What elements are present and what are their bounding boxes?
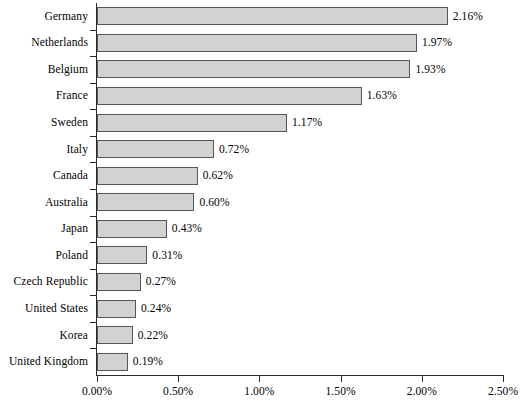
category-label: Germany <box>0 10 88 23</box>
bar-value-label: 1.63% <box>367 89 397 102</box>
bar-value-label: 0.60% <box>199 196 229 209</box>
bar-row[interactable]: United Kingdom0.19% <box>0 348 520 375</box>
bar-value-label: 1.97% <box>422 36 452 49</box>
x-axis-tick-label: 0.50% <box>138 384 218 398</box>
bar-value-label: 0.19% <box>133 355 163 368</box>
category-label: Belgium <box>0 63 88 76</box>
bar-row[interactable]: Czech Republic0.27% <box>0 269 520 296</box>
category-label: United Kingdom <box>0 355 88 368</box>
category-label: Italy <box>0 143 88 156</box>
bar-value-label: 0.62% <box>203 169 233 182</box>
x-axis-tick <box>422 376 423 382</box>
bar-with-value: 2.16% <box>97 7 483 25</box>
bar-row[interactable]: Korea0.22% <box>0 322 520 349</box>
bar-value-label: 0.72% <box>219 143 249 156</box>
y-axis-tick <box>90 322 96 323</box>
bar-chart: Germany2.16%Netherlands1.97%Belgium1.93%… <box>0 0 520 410</box>
y-axis-tick <box>90 189 96 190</box>
x-axis-tick <box>503 376 504 382</box>
category-label: Netherlands <box>0 36 88 49</box>
bar-with-value: 0.24% <box>97 300 171 318</box>
bar-value-label: 1.93% <box>415 63 445 76</box>
bar-rows-container: Germany2.16%Netherlands1.97%Belgium1.93%… <box>0 3 520 375</box>
bar-row[interactable]: Australia0.60% <box>0 189 520 216</box>
bar[interactable] <box>97 220 167 238</box>
category-label: Japan <box>0 222 88 235</box>
bar-with-value: 0.62% <box>97 167 233 185</box>
bar-with-value: 0.22% <box>97 326 168 344</box>
x-axis-tick <box>178 376 179 382</box>
bar-with-value: 0.72% <box>97 140 249 158</box>
category-label: Korea <box>0 329 88 342</box>
bar[interactable] <box>97 140 214 158</box>
bar-with-value: 1.97% <box>97 34 452 52</box>
bar-row[interactable]: Belgium1.93% <box>0 56 520 83</box>
bar[interactable] <box>97 60 410 78</box>
bar-value-label: 2.16% <box>453 10 483 23</box>
x-axis-tick-label: 2.00% <box>382 384 462 398</box>
x-axis-tick <box>97 376 98 382</box>
y-axis-tick <box>90 348 96 349</box>
bar-value-label: 0.43% <box>172 222 202 235</box>
bar[interactable] <box>97 7 448 25</box>
y-axis-tick <box>90 269 96 270</box>
bar-row[interactable]: Canada0.62% <box>0 162 520 189</box>
bar-row[interactable]: Netherlands1.97% <box>0 30 520 57</box>
bar-row[interactable]: France1.63% <box>0 83 520 110</box>
y-axis-tick <box>90 162 96 163</box>
bar-with-value: 0.19% <box>97 353 163 371</box>
bar-with-value: 0.43% <box>97 220 202 238</box>
x-axis-tick <box>341 376 342 382</box>
bar-with-value: 0.31% <box>97 246 183 264</box>
category-label: Poland <box>0 249 88 262</box>
bar-row[interactable]: United States0.24% <box>0 295 520 322</box>
bar-with-value: 1.63% <box>97 87 397 105</box>
bar-value-label: 0.27% <box>146 275 176 288</box>
bar[interactable] <box>97 246 147 264</box>
category-label: Canada <box>0 169 88 182</box>
category-label: Czech Republic <box>0 275 88 288</box>
x-axis-ticks: 0.00%0.50%1.00%1.50%2.00%2.50% <box>0 375 520 410</box>
y-axis-tick <box>90 136 96 137</box>
x-axis-tick-label: 2.50% <box>463 384 520 398</box>
y-axis-tick <box>90 216 96 217</box>
x-axis-tick <box>259 376 260 382</box>
x-axis-tick-label: 1.50% <box>301 384 381 398</box>
bar-row[interactable]: Japan0.43% <box>0 216 520 243</box>
y-axis-tick <box>90 83 96 84</box>
bar[interactable] <box>97 34 417 52</box>
x-axis-tick-label: 1.00% <box>219 384 299 398</box>
bar[interactable] <box>97 273 141 291</box>
category-label: Australia <box>0 196 88 209</box>
bar-row[interactable]: Poland0.31% <box>0 242 520 269</box>
y-axis-tick <box>90 109 96 110</box>
x-axis-tick-label: 0.00% <box>57 384 137 398</box>
bar-value-label: 0.24% <box>141 302 171 315</box>
y-axis-tick <box>90 242 96 243</box>
y-axis-tick <box>90 56 96 57</box>
bar[interactable] <box>97 353 128 371</box>
bar[interactable] <box>97 167 198 185</box>
category-label: France <box>0 89 88 102</box>
bar-with-value: 0.60% <box>97 193 230 211</box>
bar-row[interactable]: Germany2.16% <box>0 3 520 30</box>
bar-row[interactable]: Italy0.72% <box>0 136 520 163</box>
bar-with-value: 0.27% <box>97 273 176 291</box>
bar-value-label: 0.22% <box>138 329 168 342</box>
bar[interactable] <box>97 193 194 211</box>
bar-value-label: 1.17% <box>292 116 322 129</box>
category-label: United States <box>0 302 88 315</box>
bar[interactable] <box>97 326 133 344</box>
y-axis-tick <box>90 30 96 31</box>
y-axis-tick <box>90 295 96 296</box>
bar[interactable] <box>97 87 362 105</box>
bar[interactable] <box>97 300 136 318</box>
bar-row[interactable]: Sweden1.17% <box>0 109 520 136</box>
bar-with-value: 1.93% <box>97 60 446 78</box>
bar[interactable] <box>97 114 287 132</box>
bar-value-label: 0.31% <box>152 249 182 262</box>
category-label: Sweden <box>0 116 88 129</box>
bar-with-value: 1.17% <box>97 114 322 132</box>
